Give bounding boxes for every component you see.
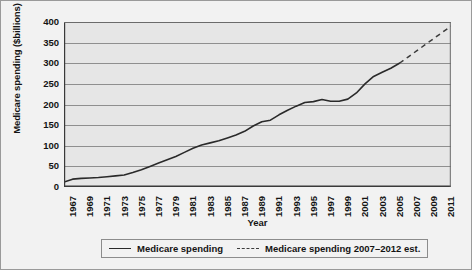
- x-axis-tick-label: 2003: [378, 196, 388, 217]
- x-axis-tick-label: 1971: [102, 196, 112, 217]
- plot-area: [64, 22, 451, 187]
- y-axis-tick-label: 50: [29, 161, 59, 171]
- y-axis-tick-label: 200: [29, 100, 59, 110]
- x-axis-tick-label: 2011: [446, 196, 456, 217]
- x-axis-tick-label: 2001: [360, 196, 370, 217]
- x-axis-tick-label: 2007: [412, 196, 422, 217]
- legend-label: Medicare spending 2007–2012 est.: [265, 243, 420, 254]
- x-axis-tick-label: 1987: [240, 196, 250, 217]
- x-axis-tick-label: 1991: [274, 196, 284, 217]
- legend-item-medicare-spending: Medicare spending: [109, 243, 223, 254]
- y-axis-tick-label: 150: [29, 120, 59, 130]
- y-axis-tick-label: 100: [29, 141, 59, 151]
- x-axis-tick-label: 1995: [309, 196, 319, 217]
- x-axis-tick-label: 1969: [85, 196, 95, 217]
- x-axis-tick-label: 1979: [171, 196, 181, 217]
- y-axis-tick-label: 0: [29, 182, 59, 192]
- x-axis-tick-label: 1973: [120, 196, 130, 217]
- legend-swatch-solid-line-icon: [109, 248, 131, 249]
- x-axis-tick-label: 1981: [188, 196, 198, 217]
- y-axis-tick-labels: 050100150200250300350400: [26, 22, 59, 187]
- y-axis-tick-label: 250: [29, 79, 59, 89]
- x-axis-tick-label: 1989: [257, 196, 267, 217]
- chart-figure: Medicare spending ($billions) 0501001502…: [0, 0, 472, 270]
- chart-canvas: [64, 22, 451, 187]
- x-axis-tick-label: 1985: [223, 196, 233, 217]
- chart-legend: Medicare spending Medicare spending 2007…: [101, 239, 428, 258]
- x-axis-title: Year: [64, 217, 451, 228]
- legend-swatch-dashed-line-icon: [237, 248, 259, 249]
- x-axis-tick-label: 1967: [68, 196, 78, 217]
- x-axis-tick-label: 1983: [206, 196, 216, 217]
- x-axis-tick-label: 1999: [343, 196, 353, 217]
- y-axis-tick-label: 350: [29, 38, 59, 48]
- x-axis-tick-label: 1977: [154, 196, 164, 217]
- y-axis-tick-label: 300: [29, 58, 59, 68]
- legend-item-medicare-spending-estimate: Medicare spending 2007–2012 est.: [237, 243, 420, 254]
- x-axis-tick-label: 1997: [326, 196, 336, 217]
- x-axis-tick-label: 1975: [137, 196, 147, 217]
- y-axis-title: Medicare spending ($billions): [11, 0, 22, 234]
- x-axis-tick-label: 1993: [292, 196, 302, 217]
- plot-background: [64, 22, 451, 187]
- x-axis-tick-label: 2009: [429, 196, 439, 217]
- x-axis-tick-label: 2005: [395, 196, 405, 217]
- legend-label: Medicare spending: [137, 243, 223, 254]
- y-axis-tick-label: 400: [29, 17, 59, 27]
